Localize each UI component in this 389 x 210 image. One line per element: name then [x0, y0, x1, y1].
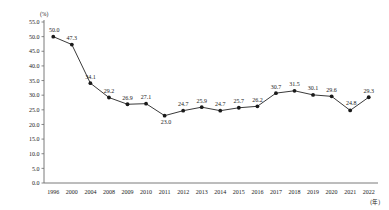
y-axis-tick-label: 15.0 — [29, 136, 40, 142]
x-axis-tick-label: 2017 — [270, 189, 282, 195]
x-axis-tick-label: 2020 — [326, 189, 338, 195]
data-point-label: 24.7 — [215, 101, 226, 107]
x-axis-tick-label: 2015 — [233, 189, 245, 195]
y-axis-tick-label: 0.0 — [32, 180, 40, 186]
data-point-marker — [367, 95, 371, 99]
y-axis-tick-label: 35.0 — [29, 78, 40, 84]
data-point-marker — [255, 104, 259, 108]
data-point-label: 25.9 — [196, 98, 207, 104]
data-point-label: 50.0 — [49, 27, 60, 33]
data-point-label: 29.2 — [104, 88, 115, 94]
data-point-label: 30.1 — [308, 85, 319, 91]
data-point-label: 29.6 — [326, 87, 337, 93]
data-point-marker — [200, 105, 204, 109]
data-point-label: 31.5 — [289, 81, 300, 87]
x-axis-tick-label: 2004 — [84, 189, 96, 195]
y-axis-tick-label: 10.0 — [29, 151, 40, 157]
chart-canvas: (%)0.05.010.015.020.025.030.035.040.045.… — [0, 0, 389, 210]
x-axis-tick-label: 2013 — [196, 189, 208, 195]
series-line — [53, 37, 368, 116]
data-point-label: 34.1 — [85, 74, 96, 80]
x-axis-tick-label: 2016 — [251, 189, 263, 195]
x-axis-tick-label: 2008 — [103, 189, 115, 195]
data-point-label: 30.7 — [271, 84, 282, 90]
data-point-label: 26.9 — [122, 95, 133, 101]
x-axis-tick-label: 2014 — [214, 189, 226, 195]
x-axis-tick-label: 2011 — [159, 189, 171, 195]
x-axis-tick-label: 2000 — [66, 189, 78, 195]
y-axis-tick-label: 5.0 — [32, 166, 40, 172]
data-point-marker — [293, 89, 297, 93]
data-point-marker — [126, 102, 130, 106]
y-axis-tick-label: 30.0 — [29, 92, 40, 98]
data-point-marker — [311, 93, 315, 97]
data-point-label: 23.0 — [161, 119, 172, 125]
x-axis-unit-label: (年) — [370, 198, 380, 206]
x-axis-tick-label: 2012 — [177, 189, 189, 195]
data-point-label: 29.3 — [363, 88, 374, 94]
data-point-marker — [88, 81, 92, 85]
x-axis-tick-label: 1996 — [47, 189, 59, 195]
data-point-label: 26.2 — [252, 97, 263, 103]
data-point-marker — [237, 106, 241, 110]
y-axis-tick-label: 50.0 — [29, 34, 40, 40]
data-point-marker — [218, 109, 222, 113]
x-axis-tick-label: 2019 — [307, 189, 319, 195]
data-point-label: 47.3 — [67, 35, 78, 41]
y-axis-tick-label: 25.0 — [29, 107, 40, 113]
data-point-label: 24.8 — [346, 100, 357, 106]
x-axis-tick-label: 2022 — [363, 189, 375, 195]
y-axis-tick-label: 40.0 — [29, 63, 40, 69]
data-point-marker — [274, 91, 278, 95]
data-point-marker — [181, 109, 185, 113]
data-point-marker — [107, 96, 111, 100]
data-point-marker — [70, 43, 74, 47]
data-point-label: 27.1 — [141, 94, 152, 100]
x-axis-tick-label: 2021 — [344, 189, 356, 195]
data-point-marker — [51, 35, 55, 39]
x-axis-tick-label: 2010 — [140, 189, 152, 195]
y-axis-tick-label: 45.0 — [29, 48, 40, 54]
y-axis-unit-label: (%) — [40, 11, 49, 18]
y-axis-tick-label: 20.0 — [29, 122, 40, 128]
data-point-marker — [144, 102, 148, 106]
data-point-label: 24.7 — [178, 101, 189, 107]
data-point-marker — [348, 109, 352, 113]
data-point-marker — [163, 114, 167, 118]
x-axis-tick-label: 2009 — [122, 189, 134, 195]
data-point-label: 25.7 — [234, 98, 245, 104]
y-axis-tick-label: 55.0 — [29, 19, 40, 25]
line-chart: (%)0.05.010.015.020.025.030.035.040.045.… — [0, 0, 389, 210]
x-axis-tick-label: 2018 — [289, 189, 301, 195]
data-point-marker — [330, 94, 334, 98]
